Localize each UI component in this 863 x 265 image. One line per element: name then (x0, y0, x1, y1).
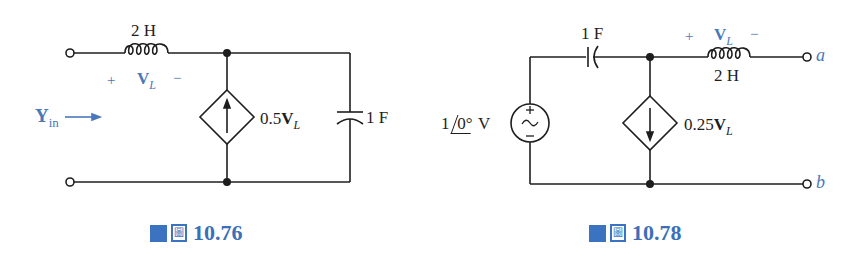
arrow-head (647, 132, 653, 140)
figure-caption: 圖 10.78 (589, 222, 682, 244)
yin-symbol: Y (35, 105, 49, 126)
capacitor-value-label: 1 F (366, 109, 388, 126)
inductor-icon (125, 44, 168, 55)
arrow-head (224, 100, 230, 108)
caption-number: 10.78 (632, 222, 682, 244)
caption-number: 10.76 (193, 222, 243, 244)
source-unit: V (478, 114, 490, 133)
vl-minus-sign: − (750, 27, 758, 42)
vl-plus-sign: + (107, 73, 115, 88)
vl-symbol: V (714, 25, 726, 44)
coef: 0.5 (260, 109, 281, 128)
figure-caption: 圖 10.76 (150, 222, 243, 244)
figure-10-78-circuit (511, 46, 811, 188)
var: V (281, 109, 293, 128)
inductor-icon (708, 48, 750, 59)
vl-plus-sign: + (685, 29, 693, 44)
source-magnitude: 1 (441, 114, 450, 133)
caption-glyph: 圖 (171, 224, 187, 242)
terminal-b (803, 180, 811, 188)
node-dot (647, 181, 653, 187)
angle-icon: 0° (450, 115, 477, 134)
caption-square-icon (589, 225, 606, 242)
voltage-source-label: 1 0° V (441, 115, 490, 134)
terminal-a (803, 53, 811, 61)
var-sub: L (726, 124, 733, 138)
vl-minus-sign: − (173, 71, 181, 86)
yin-subscript: in (49, 115, 59, 130)
terminal-b-label: b (816, 173, 825, 191)
input-terminal-top (66, 49, 74, 57)
var-sub: L (294, 118, 301, 132)
circuit-diagrams (0, 0, 863, 265)
figure-10-76-circuit (65, 44, 363, 186)
caption-glyph: 圖 (610, 224, 626, 242)
dependent-source-label: 0.25VL (684, 116, 733, 133)
terminal-a-label: a (816, 46, 825, 64)
capacitor-value-label: 1 F (581, 25, 603, 42)
vl-subscript: L (726, 34, 733, 48)
inductor-value-label: 2 H (131, 22, 156, 39)
arrow-head (92, 114, 100, 120)
vl-subscript: L (149, 78, 156, 92)
input-terminal-bottom (66, 178, 74, 186)
vl-label: VL (714, 26, 733, 43)
inductor-value-label: 2 H (714, 67, 739, 84)
vl-symbol: V (137, 69, 149, 88)
caption-square-icon (150, 225, 167, 242)
coef: 0.25 (684, 115, 714, 134)
vl-label: VL (137, 70, 156, 87)
var: V (714, 115, 726, 134)
dependent-source-label: 0.5VL (260, 110, 300, 127)
yin-label: Yin (35, 106, 59, 125)
source-angle: 0° (457, 115, 472, 132)
